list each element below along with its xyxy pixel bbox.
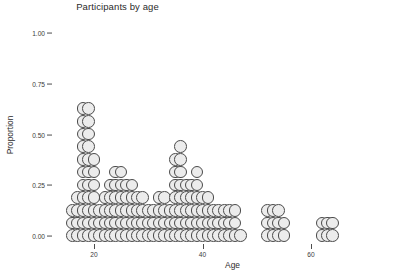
data-point-dot	[82, 102, 95, 115]
data-point-dot	[234, 229, 247, 242]
data-point-dot	[82, 128, 95, 141]
data-point-dot	[278, 229, 291, 242]
data-point-dot	[136, 191, 149, 204]
x-tick-mark	[203, 244, 204, 249]
y-tick-label: 1.00	[32, 30, 45, 37]
data-point-dot	[191, 166, 204, 179]
y-tick-mark	[47, 134, 52, 135]
dotplot-figure: Participants by age 0.000.250.500.751.00…	[0, 0, 413, 277]
data-point-dot	[82, 115, 95, 128]
y-tick-label: 0.25	[32, 182, 45, 189]
data-point-dot	[82, 140, 95, 153]
data-point-dot	[174, 166, 187, 179]
data-point-dot	[326, 217, 339, 230]
data-point-dot	[229, 217, 242, 230]
x-tick-label: 40	[199, 251, 206, 258]
x-axis-title: Age	[56, 260, 409, 270]
y-axis-title: Proportion	[4, 26, 16, 243]
page-title: Participants by age	[0, 1, 324, 12]
y-tick-label: 0.00	[32, 233, 45, 240]
y-tick-mark	[47, 83, 52, 84]
y-tick-label: 0.50	[32, 131, 45, 138]
data-point-dot	[326, 229, 339, 242]
x-tick-mark	[311, 244, 312, 249]
y-tick-mark	[47, 33, 52, 34]
data-point-dot	[126, 179, 139, 192]
data-point-dot	[88, 179, 101, 192]
data-point-dot	[88, 153, 101, 166]
data-point-dot	[202, 191, 215, 204]
data-point-dot	[115, 166, 128, 179]
data-point-dot	[191, 179, 204, 192]
data-point-dot	[272, 204, 285, 217]
data-point-dot	[229, 204, 242, 217]
data-point-dot	[278, 217, 291, 230]
data-point-dot	[88, 166, 101, 179]
y-axis-title-label: Proportion	[5, 115, 15, 154]
x-tick-label: 20	[90, 251, 97, 258]
data-point-dot	[174, 140, 187, 153]
x-tick-mark	[94, 244, 95, 249]
plot-panel	[56, 26, 409, 243]
x-tick-label: 60	[307, 251, 314, 258]
y-tick-mark	[47, 185, 52, 186]
y-tick-label: 0.75	[32, 80, 45, 87]
data-point-dot	[174, 153, 187, 166]
y-tick-mark	[47, 236, 52, 237]
